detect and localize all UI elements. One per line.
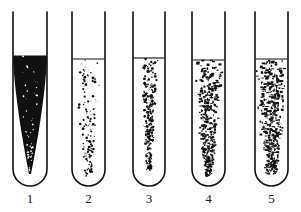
sediment-fleck: [282, 101, 284, 102]
sediment-fleck: [151, 126, 154, 129]
sediment-fleck: [85, 123, 86, 124]
sediment-fleck: [206, 166, 207, 167]
sediment-fleck: [268, 128, 269, 130]
sediment-void: [36, 95, 38, 97]
sediment-fleck: [279, 96, 280, 98]
sediment-fleck: [273, 173, 275, 174]
sediment-fleck: [263, 125, 265, 126]
sediment-fleck: [157, 60, 158, 61]
sediment-fleck: [207, 143, 210, 145]
sediment-fleck: [151, 163, 152, 164]
tube-3: [133, 12, 165, 186]
sediment-fleck: [257, 107, 258, 109]
sediment-fleck: [208, 166, 209, 168]
sediment-fleck: [268, 150, 269, 151]
sediment-fleck: [277, 140, 278, 142]
sediment-fleck: [268, 115, 269, 116]
sediment-fleck: [213, 120, 215, 122]
sediment-void: [33, 71, 34, 72]
sediment-fleck: [150, 148, 152, 150]
sediment-fleck: [265, 139, 266, 140]
sediment-void: [31, 153, 33, 155]
sediment-fleck: [204, 91, 206, 93]
sediment-fleck: [272, 126, 274, 127]
sediment-fleck: [277, 143, 278, 145]
sediment-fleck: [208, 155, 209, 156]
sediment-column: [13, 56, 47, 174]
sediment-fleck: [148, 63, 150, 65]
sediment-void: [36, 103, 38, 105]
sediment-fleck: [265, 133, 267, 134]
sediment-fleck: [82, 75, 84, 77]
sediment-fleck: [212, 94, 213, 96]
sediment-fleck: [147, 133, 148, 134]
sediment-fleck: [267, 142, 268, 144]
sediment-fleck: [275, 139, 277, 140]
sediment-fleck: [202, 154, 204, 156]
sediment-void: [31, 160, 32, 161]
sediment-fleck: [144, 68, 145, 69]
sediment-fleck: [146, 123, 147, 124]
sediment-fleck: [205, 119, 207, 120]
sediment-fleck: [85, 136, 88, 139]
sediment-fleck: [83, 73, 85, 75]
sediment-fleck: [265, 172, 267, 173]
sediment-fleck: [263, 142, 264, 143]
sediment-fleck: [144, 82, 145, 83]
sediment-fleck: [277, 108, 279, 110]
sediment-fleck: [276, 75, 278, 78]
sediment-fleck: [216, 96, 218, 97]
sediment-fleck: [264, 71, 266, 73]
sediment-fleck: [212, 67, 214, 69]
sediment-fleck: [142, 94, 144, 96]
sediment-fleck: [89, 154, 91, 156]
sediment-fleck: [78, 106, 81, 109]
sediment-fleck: [263, 127, 265, 129]
sediment-fleck: [145, 120, 147, 122]
sediment-fleck: [271, 61, 274, 63]
sediment-fleck: [87, 100, 89, 102]
sediment-fleck: [267, 155, 269, 156]
sediment-fleck: [221, 71, 223, 73]
sediment-fleck: [144, 75, 145, 76]
sediment-fleck: [210, 168, 212, 170]
sediment-fleck: [143, 91, 145, 93]
sediment-fleck: [207, 64, 210, 66]
sediment-fleck: [91, 150, 92, 151]
sediment-fleck: [147, 108, 149, 110]
sediment-fleck: [214, 87, 217, 89]
sediment-fleck: [203, 120, 204, 121]
sediment-fleck: [270, 113, 272, 115]
sediment-fleck: [87, 125, 88, 126]
sediment-fleck: [266, 140, 268, 141]
sediment-fleck: [88, 126, 89, 127]
sediment-fleck: [270, 158, 272, 159]
sediment-fleck: [151, 67, 154, 70]
sediment-fleck: [212, 123, 214, 124]
sediment-fleck: [150, 161, 151, 162]
sediment-fleck: [86, 140, 88, 142]
sediment-fleck: [151, 134, 152, 135]
sediment-fleck: [266, 166, 268, 167]
sediment-fleck: [204, 90, 206, 91]
sediment-fleck: [261, 110, 262, 112]
sediment-fleck: [269, 132, 271, 133]
sediment-fleck: [204, 121, 206, 122]
sediment-fleck: [262, 103, 264, 104]
sediment-fleck: [278, 124, 280, 126]
sediment-fleck: [210, 131, 212, 133]
sediment-fleck: [152, 129, 154, 131]
sediment-fleck: [266, 141, 267, 142]
sediment-fleck: [256, 76, 259, 77]
sediment-fleck: [263, 89, 266, 90]
sediment-fleck: [200, 101, 202, 102]
sediment-fleck: [215, 123, 218, 125]
sediment-fleck: [207, 134, 209, 136]
tube-contents: [195, 60, 223, 177]
sediment-fleck: [212, 61, 215, 62]
sediment-void: [32, 146, 33, 147]
tube-label-4: 4: [189, 192, 229, 205]
sediment-fleck: [204, 86, 206, 87]
sediment-fleck: [199, 127, 201, 129]
sediment-fleck: [265, 78, 267, 79]
